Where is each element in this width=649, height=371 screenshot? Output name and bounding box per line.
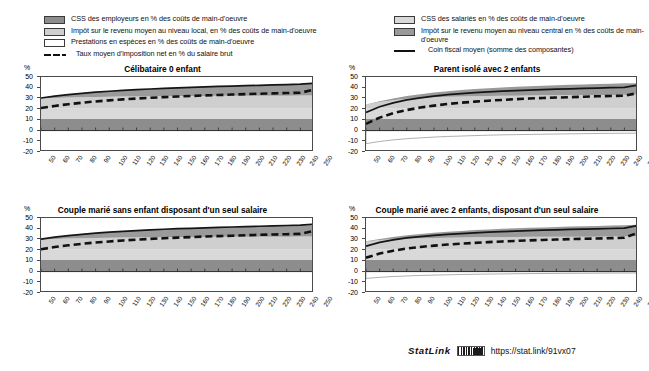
x-tick-label: 130 bbox=[158, 295, 170, 308]
y-tick-label: 40 bbox=[17, 224, 33, 231]
legend-swatch-impot-central bbox=[394, 28, 415, 36]
x-tick-label: 100 bbox=[442, 295, 454, 308]
y-tick bbox=[37, 119, 40, 120]
y-tick bbox=[362, 97, 365, 98]
chart-couple-sans-enfant: Couple marié sans enfant disposant d'un … bbox=[0, 205, 325, 336]
y-tick bbox=[37, 228, 40, 229]
y-tick-label: 30 bbox=[17, 94, 33, 101]
x-tick-label: 220 bbox=[605, 154, 617, 167]
x-tick-label: 220 bbox=[281, 154, 293, 167]
y-tick bbox=[362, 260, 365, 261]
x-tick-label: 70 bbox=[399, 295, 409, 305]
x-tick-label: 150 bbox=[510, 295, 522, 308]
y-tick-label: 10 bbox=[342, 256, 358, 263]
x-tick-label: 160 bbox=[199, 154, 211, 167]
legend-solid-line-coin-fiscal-moyen bbox=[394, 47, 415, 55]
y-tick-label: -10 bbox=[342, 278, 358, 285]
y-tick-label: 40 bbox=[17, 83, 33, 90]
y-tick-label: -20 bbox=[342, 289, 358, 296]
chart-parent-isole-2-enfants: Parent isolé avec 2 enfants%50403020100-… bbox=[325, 64, 649, 195]
y-tick bbox=[37, 76, 40, 77]
legend-item-css-employeurs: CSS des employeurs en % des coûts de mai… bbox=[44, 14, 334, 24]
x-tick-label: 50 bbox=[47, 295, 57, 305]
y-tick bbox=[37, 292, 40, 293]
y-tick-label: -10 bbox=[17, 278, 33, 285]
x-tick-label: 60 bbox=[61, 154, 71, 164]
x-tick-label: 60 bbox=[386, 154, 396, 164]
legend-item-impot-central: Impôt sur le revenu moyen au niveau cent… bbox=[394, 26, 644, 44]
y-tick-label: 30 bbox=[342, 94, 358, 101]
y-tick-label: 0 bbox=[342, 126, 358, 133]
plot-area bbox=[40, 217, 313, 292]
area-CSS des salariés e bbox=[41, 250, 313, 261]
y-tick bbox=[37, 249, 40, 250]
x-tick-label: 200 bbox=[253, 295, 265, 308]
x-tick-label: 140 bbox=[172, 295, 184, 308]
y-tick-label: -20 bbox=[17, 289, 33, 296]
x-tick-label: 170 bbox=[537, 154, 549, 167]
x-tick-label: 50 bbox=[47, 154, 57, 164]
legend-item-coin-fiscal-moyen: Coin fiscal moyen (somme des composantes… bbox=[394, 45, 644, 55]
y-tick bbox=[362, 249, 365, 250]
y-tick-label: -10 bbox=[342, 137, 358, 144]
figure-root: CSS des employeurs en % des coûts de mai… bbox=[0, 0, 649, 371]
area-prestations-especes bbox=[366, 131, 637, 144]
y-tick-label: 50 bbox=[342, 73, 358, 80]
legend-left: CSS des employeurs en % des coûts de mai… bbox=[44, 14, 334, 60]
legend-item-prestations-especes: Prestations en espèces en % des coûts de… bbox=[44, 37, 334, 47]
x-tick-label: 150 bbox=[510, 154, 522, 167]
x-tick-label: 120 bbox=[144, 154, 156, 167]
x-tick-label: 240 bbox=[308, 295, 320, 308]
x-tick-label: 100 bbox=[117, 154, 129, 167]
y-tick bbox=[362, 271, 365, 272]
statlink-url[interactable]: https://stat.link/91vx07 bbox=[491, 346, 576, 356]
statlink-label: StatLink bbox=[408, 345, 451, 356]
y-tick-label: 20 bbox=[342, 105, 358, 112]
x-tick-label: 200 bbox=[253, 154, 265, 167]
y-tick bbox=[362, 87, 365, 88]
x-tick-label: 190 bbox=[240, 295, 252, 308]
chart-title: Parent isolé avec 2 enfants bbox=[325, 64, 649, 74]
legend-item-css-salaries: CSS des salariés en % des coûts de main-… bbox=[394, 14, 644, 24]
x-tick-label: 70 bbox=[74, 154, 84, 164]
area-CSS des salariés e bbox=[41, 109, 313, 120]
x-tick-label: 230 bbox=[619, 295, 631, 308]
x-tick-label: 220 bbox=[605, 295, 617, 308]
y-tick bbox=[37, 97, 40, 98]
x-tick-label: 230 bbox=[294, 295, 306, 308]
y-tick bbox=[362, 76, 365, 77]
y-tick-label: 50 bbox=[17, 214, 33, 221]
y-axis-unit-label: % bbox=[24, 205, 30, 212]
y-tick bbox=[37, 108, 40, 109]
x-tick-label: 70 bbox=[74, 295, 84, 305]
y-tick bbox=[37, 130, 40, 131]
x-tick-label: 50 bbox=[372, 295, 382, 305]
y-tick bbox=[362, 130, 365, 131]
chart-title: Couple marié sans enfant disposant d'un … bbox=[0, 205, 325, 215]
x-tick-label: 160 bbox=[523, 295, 535, 308]
chart-title: Couple marié avec 2 enfants, disposant d… bbox=[325, 205, 649, 215]
x-tick-label: 110 bbox=[455, 154, 467, 166]
legend-dashed-line-taux-moyen-imposition-net bbox=[44, 51, 65, 59]
area-CSS des salariés e bbox=[366, 109, 637, 120]
x-tick-label: 120 bbox=[469, 154, 481, 167]
x-tick-label: 180 bbox=[226, 295, 238, 308]
x-tick-label: 100 bbox=[117, 295, 129, 308]
x-tick-label: 210 bbox=[591, 154, 603, 167]
chart-title: Célibataire 0 enfant bbox=[0, 64, 325, 74]
plot-area bbox=[40, 76, 313, 151]
x-tick-label: 180 bbox=[551, 154, 563, 167]
y-tick-label: -10 bbox=[17, 137, 33, 144]
statlink-footer[interactable]: StatLink https://stat.link/91vx07 bbox=[408, 345, 576, 356]
y-tick bbox=[37, 260, 40, 261]
y-tick-label: 40 bbox=[342, 224, 358, 231]
y-tick-label: 50 bbox=[342, 214, 358, 221]
x-tick-label: 120 bbox=[469, 295, 481, 308]
y-tick-label: 30 bbox=[342, 235, 358, 242]
legend-label-prestations-especes: Prestations en espèces en % des coûts de… bbox=[71, 37, 254, 46]
y-tick bbox=[37, 271, 40, 272]
legend-swatch-prestations-especes bbox=[44, 39, 65, 47]
x-tick-label: 50 bbox=[372, 154, 382, 164]
x-tick-label: 190 bbox=[240, 154, 252, 167]
x-tick-label: 160 bbox=[523, 154, 535, 167]
